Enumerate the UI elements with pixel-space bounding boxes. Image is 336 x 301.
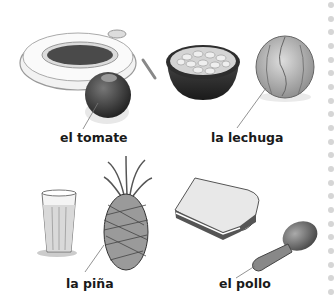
chicken-leg-illustration <box>0 0 336 301</box>
page-margin-dots <box>327 0 335 301</box>
label-el-tomate: el tomate <box>60 130 128 145</box>
label-la-pina: la piña <box>66 276 114 291</box>
label-la-lechuga: la lechuga <box>211 130 283 145</box>
label-el-pollo: el pollo <box>219 276 271 291</box>
